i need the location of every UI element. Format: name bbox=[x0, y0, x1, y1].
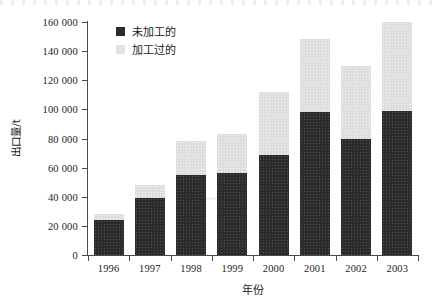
x-axis-title: 年份 bbox=[0, 281, 435, 297]
x-axis-tick bbox=[294, 256, 295, 261]
x-axis-tick bbox=[129, 256, 130, 261]
y-axis-tick-label: 80 000 bbox=[48, 133, 78, 144]
y-axis-tick-label: 60 000 bbox=[48, 162, 78, 173]
legend-item-processed: 加工过的 bbox=[116, 40, 176, 58]
y-axis-tick-label: 160 000 bbox=[42, 17, 78, 28]
legend-label-processed: 加工过的 bbox=[132, 41, 176, 57]
y-axis-tick-label: 40 000 bbox=[48, 191, 78, 202]
bar-segment-processed bbox=[259, 92, 289, 155]
x-axis-tick-label: 1999 bbox=[221, 263, 243, 274]
bar-segment-unprocessed bbox=[382, 111, 412, 255]
x-axis-tick bbox=[418, 256, 419, 261]
x-axis-tick-label: 1996 bbox=[98, 263, 120, 274]
legend-label-unprocessed: 未加工的 bbox=[132, 23, 176, 39]
bar-group bbox=[176, 141, 206, 255]
x-axis-tick bbox=[377, 256, 378, 261]
bar-group bbox=[135, 185, 165, 255]
bar-segment-processed bbox=[300, 39, 330, 112]
bar-group bbox=[382, 22, 412, 255]
bar-group bbox=[341, 66, 371, 255]
bar-segment-unprocessed bbox=[135, 198, 165, 255]
bar-segment-unprocessed bbox=[259, 155, 289, 255]
light-square-swatch-icon bbox=[116, 45, 125, 54]
x-axis-tick-label: 1997 bbox=[139, 263, 161, 274]
y-axis-tick-label: 20 000 bbox=[48, 220, 78, 231]
bar-segment-processed bbox=[217, 134, 247, 173]
x-axis-tick bbox=[171, 256, 172, 261]
bar-segment-processed bbox=[94, 214, 124, 220]
x-axis-tick-label: 2002 bbox=[345, 263, 367, 274]
bar-segment-processed bbox=[382, 22, 412, 111]
y-axis-tick-label: 120 000 bbox=[42, 75, 78, 86]
x-axis-tick-label: 2000 bbox=[263, 263, 285, 274]
x-axis-tick bbox=[88, 256, 89, 261]
x-axis-tick-label: 2003 bbox=[386, 263, 408, 274]
legend-item-unprocessed: 未加工的 bbox=[116, 22, 176, 40]
y-axis-tick-label: 140 000 bbox=[42, 46, 78, 57]
x-axis-tick bbox=[212, 256, 213, 261]
bar-group bbox=[300, 39, 330, 255]
bar-group bbox=[94, 214, 124, 255]
y-axis-title: 出口量/t bbox=[8, 119, 23, 157]
stacked-bar-chart: 020 00040 00060 00080 000100 000120 0001… bbox=[0, 0, 435, 304]
y-axis-tick-label: 100 000 bbox=[42, 104, 78, 115]
x-axis-tick-label: 1998 bbox=[180, 263, 202, 274]
y-axis-tick-label: 0 bbox=[73, 250, 78, 261]
bar-segment-processed bbox=[176, 141, 206, 174]
bar-segment-unprocessed bbox=[94, 220, 124, 255]
bar-group bbox=[259, 92, 289, 255]
x-axis-tick bbox=[253, 256, 254, 261]
x-axis-tick bbox=[336, 256, 337, 261]
bar-segment-unprocessed bbox=[217, 173, 247, 255]
bar-segment-processed bbox=[341, 66, 371, 139]
bar-segment-unprocessed bbox=[341, 139, 371, 256]
bar-segment-unprocessed bbox=[176, 175, 206, 255]
bar-segment-processed bbox=[135, 185, 165, 198]
x-axis-tick-label: 2001 bbox=[304, 263, 326, 274]
chart-legend: 未加工的 加工过的 bbox=[116, 22, 176, 58]
dark-square-swatch-icon bbox=[116, 27, 125, 36]
bar-group bbox=[217, 134, 247, 255]
bar-segment-unprocessed bbox=[300, 112, 330, 255]
